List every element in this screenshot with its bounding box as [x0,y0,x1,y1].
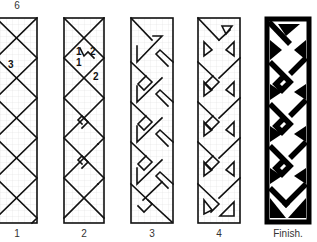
panel-label-3: 3 [145,228,159,239]
panel-finish [267,19,309,222]
panel-label-finish: Finish. [264,228,312,239]
svg-text:1: 1 [76,57,82,68]
panel-4 [198,18,240,223]
svg-text:2: 2 [93,71,99,82]
panel-label-4: 4 [212,228,226,239]
panel-label-1: 1 [10,228,24,239]
panel-1: 3 [0,18,37,223]
pattern-steps-diagram: 3 1 2 1 2 [0,0,317,242]
annotation-3: 3 [8,59,14,70]
panel-label-2: 2 [77,228,91,239]
panel-3 [131,18,173,223]
panel-2: 1 2 1 2 [64,18,104,223]
